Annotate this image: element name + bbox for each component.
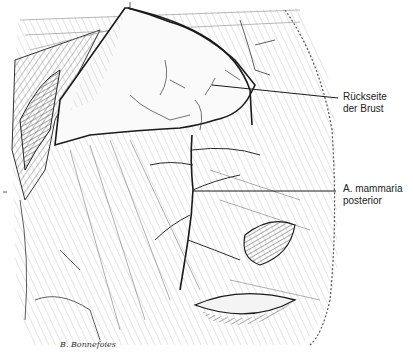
artist-signature: B. Bonnefoies	[60, 340, 116, 349]
anatomical-drawing: Rückseite der Brust A. mammaria posterio…	[0, 0, 413, 357]
drawing-canvas	[0, 0, 413, 357]
label-line: A. mammaria	[343, 183, 402, 195]
label-line: posterior	[343, 195, 402, 207]
label-rueckseite-der-brust: Rückseite der Brust	[343, 91, 387, 115]
label-a-mammaria-posterior: A. mammaria posterior	[343, 183, 402, 207]
label-line: Rückseite	[343, 91, 387, 103]
label-line: der Brust	[343, 103, 387, 115]
